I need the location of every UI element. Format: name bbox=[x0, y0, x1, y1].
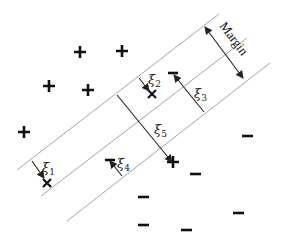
upper-margin-line bbox=[17, 14, 219, 170]
slack-cross-points bbox=[43, 90, 156, 187]
svg-text:ξ4: ξ4 bbox=[117, 156, 130, 173]
svg-text:ξ5: ξ5 bbox=[154, 122, 167, 139]
svg-text:ξ2: ξ2 bbox=[148, 72, 161, 89]
lower-margin-line bbox=[67, 63, 270, 221]
svg-text:ξ3: ξ3 bbox=[194, 86, 207, 103]
decision-boundary bbox=[41, 38, 247, 196]
svm-diagram: Margin ξ1 ξ2 ξ3 ξ4 bbox=[0, 0, 282, 244]
slack-negative-points bbox=[105, 73, 178, 160]
svg-text:ξ1: ξ1 bbox=[42, 160, 55, 177]
negative-points bbox=[138, 136, 253, 230]
